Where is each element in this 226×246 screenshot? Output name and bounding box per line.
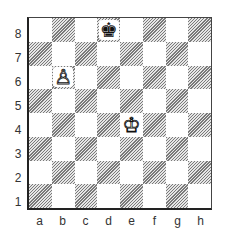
square-e5 xyxy=(120,89,143,113)
square-g2 xyxy=(166,161,189,185)
square-g5 xyxy=(166,89,189,113)
square-f6 xyxy=(143,66,166,90)
square-f8 xyxy=(143,18,166,42)
square-a2 xyxy=(29,161,52,185)
square-b4 xyxy=(52,113,75,137)
square-c2 xyxy=(75,161,98,185)
square-c4 xyxy=(75,113,98,137)
square-h5 xyxy=(188,89,211,113)
square-a6 xyxy=(29,66,52,90)
square-d5 xyxy=(97,89,120,113)
square-e7 xyxy=(120,42,143,66)
black-king-icon: ♚ xyxy=(99,20,119,40)
rank-label-1: 1 xyxy=(12,195,24,209)
square-e3 xyxy=(120,137,143,161)
file-label-h: h xyxy=(189,214,212,228)
square-g4 xyxy=(166,113,189,137)
square-d3 xyxy=(97,137,120,161)
file-label-c: c xyxy=(74,214,97,228)
square-h8 xyxy=(188,18,211,42)
square-h3 xyxy=(188,137,211,161)
square-e1 xyxy=(120,184,143,208)
rank-label-3: 3 xyxy=(12,147,24,161)
square-b8 xyxy=(52,18,75,42)
rank-label-5: 5 xyxy=(12,99,24,113)
rank-label-2: 2 xyxy=(12,171,24,185)
square-h6 xyxy=(188,66,211,90)
square-g6 xyxy=(166,66,189,90)
rank-label-6: 6 xyxy=(12,75,24,89)
square-e4: ♔ xyxy=(120,113,143,137)
square-a4 xyxy=(29,113,52,137)
square-c8 xyxy=(75,18,98,42)
chess-board: ♚♙♔ xyxy=(27,17,212,210)
square-b3 xyxy=(52,137,75,161)
file-label-g: g xyxy=(166,214,189,228)
square-e6 xyxy=(120,66,143,90)
square-a7 xyxy=(29,42,52,66)
square-d1 xyxy=(97,184,120,208)
square-h1 xyxy=(188,184,211,208)
white-king-icon: ♔ xyxy=(122,115,140,135)
square-h7 xyxy=(188,42,211,66)
square-f3 xyxy=(143,137,166,161)
square-f5 xyxy=(143,89,166,113)
square-a1 xyxy=(29,184,52,208)
square-b6: ♙ xyxy=(52,66,75,90)
rank-label-8: 8 xyxy=(12,27,24,41)
square-b5 xyxy=(52,89,75,113)
square-g7 xyxy=(166,42,189,66)
square-f4 xyxy=(143,113,166,137)
square-g3 xyxy=(166,137,189,161)
file-label-a: a xyxy=(28,214,51,228)
square-a8 xyxy=(29,18,52,42)
rank-label-7: 7 xyxy=(12,51,24,65)
square-f2 xyxy=(143,161,166,185)
square-g8 xyxy=(166,18,189,42)
file-label-e: e xyxy=(120,214,143,228)
square-c5 xyxy=(75,89,98,113)
square-c3 xyxy=(75,137,98,161)
square-e8 xyxy=(120,18,143,42)
square-c6 xyxy=(75,66,98,90)
square-d2 xyxy=(97,161,120,185)
file-label-d: d xyxy=(97,214,120,228)
square-a3 xyxy=(29,137,52,161)
square-a5 xyxy=(29,89,52,113)
square-c7 xyxy=(75,42,98,66)
square-d7 xyxy=(97,42,120,66)
square-c1 xyxy=(75,184,98,208)
square-b7 xyxy=(52,42,75,66)
square-h2 xyxy=(188,161,211,185)
square-f7 xyxy=(143,42,166,66)
square-b1 xyxy=(52,184,75,208)
square-g1 xyxy=(166,184,189,208)
square-h4 xyxy=(188,113,211,137)
file-label-f: f xyxy=(143,214,166,228)
white-pawn-icon: ♙ xyxy=(53,67,73,87)
square-e2 xyxy=(120,161,143,185)
square-d8: ♚ xyxy=(97,18,120,42)
square-d6 xyxy=(97,66,120,90)
square-d4 xyxy=(97,113,120,137)
square-f1 xyxy=(143,184,166,208)
square-b2 xyxy=(52,161,75,185)
rank-label-4: 4 xyxy=(12,123,24,137)
file-label-b: b xyxy=(51,214,74,228)
